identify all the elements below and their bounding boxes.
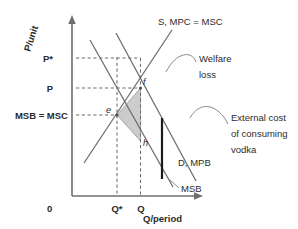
x-tick-q: Q [137,203,144,214]
y-axis-arrowhead [68,15,76,24]
origin-label: 0 [47,203,52,214]
external-cost-leader-line [190,107,228,124]
point-marker-e [116,114,119,117]
y-tick-msb-msc: MSB = MSC [15,110,68,121]
annotation-external-cost-line3: vodka [231,144,257,155]
point-label-e: e [106,105,111,115]
supply-curve-s-mpc-msc [84,30,172,163]
point-marker-f [139,87,142,90]
y-tick-p: P [47,83,54,94]
y-axis-label: P/unit [21,23,40,52]
annotation-external-cost-line1: External cost [231,112,286,123]
annotation-external-cost-line2: of consuming [231,128,288,139]
point-label-h: h [143,138,148,148]
y-tick-p-star: P* [43,53,53,64]
curve-label-supply: S, MPC = MSC [158,16,223,27]
annotation-welfare-loss-line2: loss [199,69,216,80]
x-axis-label: Q/period [143,213,182,224]
curve-label-msb: MSB [181,183,202,194]
welfare-loss-leader-line [166,55,196,72]
curve-label-demand: D, MPB [178,157,211,168]
point-label-f: f [143,77,147,87]
x-tick-q-star: Q* [111,203,122,214]
diagram-canvas: P/unit Q/period 0 P* P MSB = MSC Q* Q S,… [0,0,298,229]
annotation-welfare-loss-line1: Welfare [199,53,232,64]
economics-diagram-figure: P/unit Q/period 0 P* P MSB = MSC Q* Q S,… [0,0,298,229]
